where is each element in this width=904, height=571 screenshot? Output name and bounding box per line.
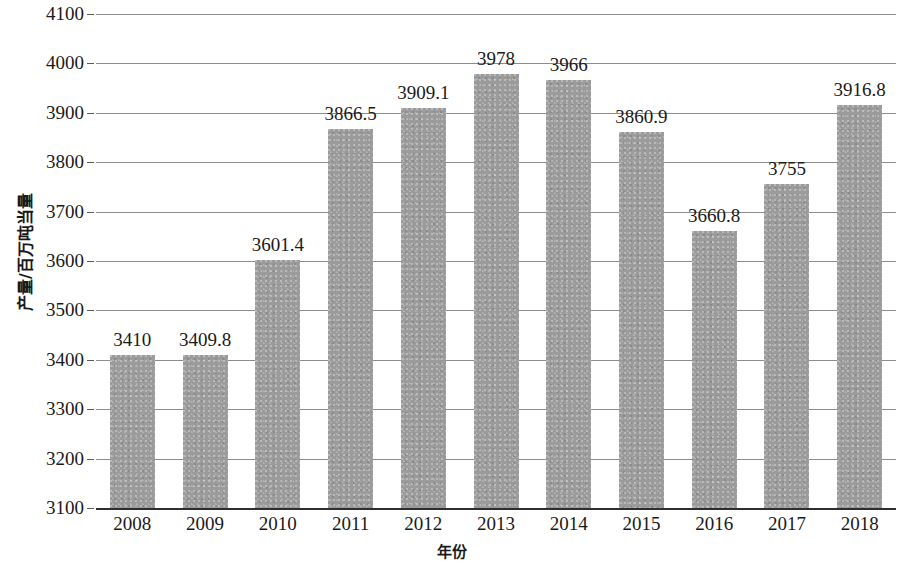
y-tick-label: 3700 [14,202,84,221]
y-tick-mark [87,261,94,262]
bar-value-label: 3966 [509,55,629,74]
bar-value-label: 3860.9 [581,107,701,126]
y-tick-mark [87,63,94,64]
y-tick-mark [87,113,94,114]
y-tick-label: 3100 [14,498,84,517]
bar [328,129,373,508]
bar [474,74,519,508]
x-tick-label: 2018 [815,514,904,533]
bar-value-label: 3866.5 [291,104,411,123]
y-tick-label: 4000 [14,53,84,72]
y-tick-label: 3900 [14,103,84,122]
y-tick-label: 3800 [14,152,84,171]
bar [546,80,591,508]
bar [692,231,737,508]
bar-value-label: 3601.4 [218,235,338,254]
y-tick-mark [87,162,94,163]
y-tick-mark [87,459,94,460]
y-tick-label: 3300 [14,399,84,418]
bar-chart: 产量/百万吨当量 4100400039003800370036003500340… [0,0,904,571]
y-tick-mark [87,360,94,361]
bar-value-label: 3755 [727,159,847,178]
y-tick-label: 4100 [14,4,84,23]
gridline [96,508,896,510]
y-tick-mark [87,14,94,15]
y-tick-mark [87,409,94,410]
bar [110,355,155,508]
gridline [96,14,896,15]
y-tick-label: 3600 [14,251,84,270]
bar [183,355,228,508]
y-tick-label: 3200 [14,449,84,468]
bar [255,260,300,508]
y-tick-mark [87,310,94,311]
y-tick-label: 3500 [14,300,84,319]
bar-value-label: 3909.1 [363,83,483,102]
bar-value-label: 3916.8 [800,80,904,99]
y-tick-label: 3400 [14,350,84,369]
plot-area [96,14,896,508]
bar [401,108,446,508]
bar [764,184,809,508]
bar [619,132,664,508]
bar-value-label: 3409.8 [145,330,265,349]
bar-value-label: 3660.8 [654,206,774,225]
x-axis-title: 年份 [0,540,904,561]
y-tick-mark [87,508,94,509]
y-tick-mark [87,212,94,213]
